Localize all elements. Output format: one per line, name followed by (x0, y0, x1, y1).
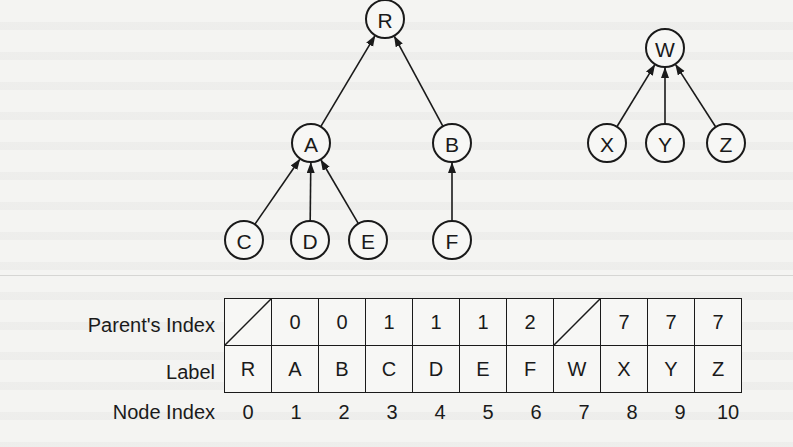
parent-index-row: 001112777 (225, 299, 742, 346)
tree-node-w: W (646, 29, 684, 67)
node-index-value: 4 (416, 396, 464, 428)
edge-c-to-a (255, 159, 300, 224)
parent-cell: 1 (460, 299, 507, 346)
node-index-value: 3 (368, 396, 416, 428)
parent-pointer-forest: RABCDEFWXYZ (0, 0, 793, 280)
label-cell: Y (648, 346, 695, 393)
parent-cell: 7 (648, 299, 695, 346)
edge-a-to-r (321, 36, 375, 127)
parent-cell: 0 (319, 299, 366, 346)
node-index-row: 012345678910 (224, 396, 752, 428)
node-label: R (377, 9, 392, 32)
label-cell: D (413, 346, 460, 393)
parent-cell: 0 (272, 299, 319, 346)
edge-x-to-w (617, 65, 655, 127)
node-label: E (361, 230, 375, 253)
tree-node-r: R (366, 0, 404, 38)
tree-node-b: B (433, 124, 471, 162)
tree-node-z: Z (707, 124, 745, 162)
node-label: Z (720, 133, 733, 156)
parent-cell: 1 (413, 299, 460, 346)
edge-d-to-a (310, 163, 311, 221)
label-row: RABCDEFWXYZ (225, 346, 742, 393)
row-label-parent-index: Parent's Index (0, 301, 215, 349)
node-label: C (236, 230, 251, 253)
tree-node-x: X (588, 124, 626, 162)
node-label: A (304, 133, 318, 156)
label-cell: F (507, 346, 554, 393)
node-index-value: 1 (272, 396, 320, 428)
parent-cell: 7 (601, 299, 648, 346)
node-index-value: 2 (320, 396, 368, 428)
node-label: F (446, 230, 459, 253)
node-label: Y (658, 133, 672, 156)
tree-node-f: F (433, 221, 471, 259)
node-index-value: 5 (464, 396, 512, 428)
node-label: X (600, 133, 614, 156)
edge-b-to-r (395, 37, 443, 127)
node-label: D (302, 230, 317, 253)
label-cell: R (225, 346, 272, 393)
slash-icon (554, 299, 600, 345)
parent-cell-root-slash (554, 299, 601, 346)
tree-node-a: A (292, 124, 330, 162)
label-cell: W (554, 346, 601, 393)
parent-cell-root-slash (225, 299, 272, 346)
label-cell: E (460, 346, 507, 393)
node-label: W (655, 38, 675, 61)
label-cell: X (601, 346, 648, 393)
node-index-value: 7 (560, 396, 608, 428)
node-label: B (445, 133, 459, 156)
edge-z-to-w (676, 65, 716, 127)
parent-cell: 2 (507, 299, 554, 346)
parent-cell: 1 (366, 299, 413, 346)
label-cell: A (272, 346, 319, 393)
row-label-label: Label (0, 348, 215, 396)
row-label-node-index: Node Index (0, 392, 215, 432)
edge-e-to-a (321, 160, 358, 223)
node-index-value: 0 (224, 396, 272, 428)
parent-pointer-array: 001112777 RABCDEFWXYZ (224, 298, 742, 393)
label-cell: Z (695, 346, 742, 393)
parent-cell: 7 (695, 299, 742, 346)
slash-icon (225, 299, 271, 345)
label-cell: B (319, 346, 366, 393)
node-index-value: 6 (512, 396, 560, 428)
node-index-value: 10 (704, 396, 752, 428)
tree-node-c: C (225, 221, 263, 259)
tree-node-y: Y (646, 124, 684, 162)
label-cell: C (366, 346, 413, 393)
tree-nodes: RABCDEFWXYZ (225, 0, 745, 259)
tree-node-d: D (291, 221, 329, 259)
node-index-value: 8 (608, 396, 656, 428)
tree-node-e: E (349, 221, 387, 259)
node-index-value: 9 (656, 396, 704, 428)
